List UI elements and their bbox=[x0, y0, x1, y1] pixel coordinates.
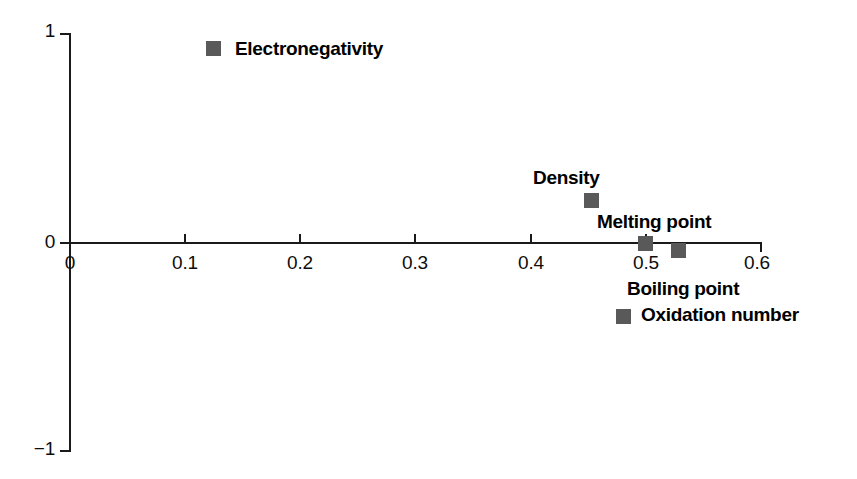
y-tick-label-1: 1 bbox=[5, 20, 55, 42]
scatter-plot-chart: 0 0.1 0.2 0.3 0.4 0.5 0.6 1 0 −1 Electro… bbox=[0, 0, 857, 479]
x-tick-label-0-1: 0.1 bbox=[150, 252, 220, 274]
x-tick-label-0-6: 0.6 bbox=[722, 252, 792, 274]
data-point-boiling-point[interactable] bbox=[671, 243, 686, 258]
data-point-melting-point[interactable] bbox=[638, 236, 653, 251]
y-tick-1 bbox=[60, 33, 70, 35]
x-tick-label-0: 0 bbox=[35, 252, 105, 274]
x-tick-label-0-2: 0.2 bbox=[265, 252, 335, 274]
data-label-oxidation-number: Oxidation number bbox=[641, 304, 799, 326]
data-label-melting-point: Melting point bbox=[597, 211, 711, 233]
data-label-density: Density bbox=[533, 167, 600, 189]
x-tick-0-2 bbox=[299, 234, 301, 243]
data-point-electronegativity[interactable] bbox=[206, 41, 221, 56]
x-tick-0-4 bbox=[530, 234, 532, 243]
y-tick-neg-1 bbox=[60, 450, 70, 452]
data-label-boiling-point: Boiling point bbox=[627, 278, 739, 300]
data-point-density[interactable] bbox=[584, 193, 599, 208]
x-tick-0-3 bbox=[414, 234, 416, 243]
data-label-electronegativity: Electronegativity bbox=[235, 38, 383, 60]
x-tick-0-6 bbox=[760, 243, 762, 252]
y-tick-0 bbox=[60, 242, 70, 244]
x-axis-line bbox=[70, 242, 762, 244]
x-tick-label-0-3: 0.3 bbox=[380, 252, 450, 274]
x-tick-label-0-4: 0.4 bbox=[496, 252, 566, 274]
y-tick-label-neg-1: −1 bbox=[5, 438, 55, 460]
x-tick-0-1 bbox=[184, 234, 186, 243]
y-tick-label-0: 0 bbox=[5, 231, 55, 253]
data-point-oxidation-number[interactable] bbox=[616, 309, 631, 324]
